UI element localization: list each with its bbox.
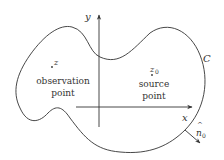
source-subscript: 0	[155, 68, 159, 75]
contour-diagram: y x C z observation point z 0 source poi…	[0, 0, 224, 160]
y-axis-label: y	[84, 11, 91, 22]
contour-curve	[16, 26, 205, 152]
normal-subscript: 0	[202, 132, 206, 139]
observation-point-dot	[51, 66, 53, 68]
source-label-1: source	[139, 79, 170, 89]
observation-label-2: point	[51, 88, 75, 98]
observation-symbol: z	[53, 58, 59, 67]
source-label-2: point	[142, 91, 166, 101]
curve-label: C	[203, 53, 211, 64]
x-axis-label: x	[182, 112, 188, 123]
source-point-dot	[151, 74, 153, 76]
observation-label-1: observation	[36, 76, 90, 86]
